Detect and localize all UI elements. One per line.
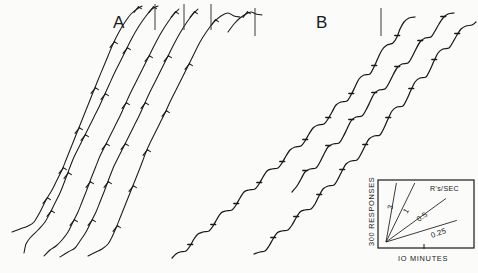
cumulative-record-figure: A B R's/SEC 3 1 0.5 0.25 300 RESPONSES I… xyxy=(0,0,478,273)
reinforcement-pip xyxy=(171,12,175,18)
reinforcement-pip-hook xyxy=(108,182,111,184)
reinforcement-pip xyxy=(190,12,194,18)
record-line xyxy=(254,22,476,254)
legend-rate-ray-0-25 xyxy=(386,220,457,242)
reinforcement-pip-hook xyxy=(147,150,150,152)
reinforcement-pip-hook xyxy=(175,12,178,14)
reinforcement-pip-hook xyxy=(194,12,197,14)
panel-label-b: B xyxy=(316,13,327,32)
record-trace-a1 xyxy=(12,6,142,232)
reinforcement-pip-hook xyxy=(189,64,192,66)
reinforcement-pip xyxy=(243,12,247,18)
record-line xyxy=(24,6,158,253)
rate-calibration-legend: R's/SEC 3 1 0.5 0.25 300 RESPONSES IO MI… xyxy=(367,177,474,264)
legend-rate-units-label: R's/SEC xyxy=(430,185,459,193)
reinforcement-pip-hook xyxy=(126,103,129,105)
reinforcement-pip-hook xyxy=(85,135,88,137)
legend-y-axis-label: 300 RESPONSES xyxy=(367,177,376,247)
record-line xyxy=(12,6,142,232)
legend-x-axis-label: IO MINUTES xyxy=(398,254,448,263)
reinforcement-pip-hook xyxy=(114,42,117,44)
record-trace-b2 xyxy=(254,22,476,254)
cumulative-record-canvas: A B R's/SEC 3 1 0.5 0.25 300 RESPONSES I… xyxy=(0,0,478,273)
panel-label-a: A xyxy=(113,13,125,32)
reinforcement-pip-hook xyxy=(74,220,77,222)
reinforcement-pip-hook xyxy=(68,173,71,175)
reinforcement-pip-hook xyxy=(47,198,50,200)
record-line xyxy=(60,9,198,257)
panel-labels: A B xyxy=(113,13,327,32)
reinforcement-pip-hook xyxy=(51,211,54,213)
legend-rate-label-3: 3 xyxy=(385,204,395,211)
reinforcement-pip-hook xyxy=(95,88,98,90)
reinforcement-pip-hook xyxy=(92,220,95,222)
reinforcement-pip xyxy=(134,7,138,13)
reinforcement-pip-hook xyxy=(149,56,152,58)
reinforcement-pip xyxy=(149,7,153,13)
reinforcement-pip-hook xyxy=(125,144,128,146)
reinforcement-pip-hook xyxy=(117,226,120,228)
reinforcement-pip-hook xyxy=(166,111,169,113)
reinforcement-pip-hook xyxy=(215,20,218,22)
reinforcement-pip-hook xyxy=(133,186,136,188)
legend-rate-ray-1 xyxy=(386,183,415,242)
legend-rate-ray-3 xyxy=(386,183,396,242)
reinforcement-pip-hook xyxy=(168,56,171,58)
record-trace-a4 xyxy=(60,9,198,257)
record-line xyxy=(292,13,454,192)
reinforcement-pip xyxy=(211,20,215,26)
reinforcement-pip-hook xyxy=(105,94,108,96)
reinforcement-pip-hook xyxy=(79,128,82,130)
reinforcement-pip-hook xyxy=(63,168,66,170)
reinforcement-pip-hook xyxy=(127,48,130,50)
reinforcement-pip-hook xyxy=(106,144,109,146)
record-trace-b3 xyxy=(292,13,454,192)
cumulative-record-traces xyxy=(12,6,476,258)
reinforcement-pip-hook xyxy=(90,182,93,184)
legend-rate-label-1: 1 xyxy=(401,207,411,216)
record-trace-a2 xyxy=(24,6,158,253)
reinforcement-pip-hook xyxy=(145,103,148,105)
record-trace-a-partial-right xyxy=(228,12,262,32)
